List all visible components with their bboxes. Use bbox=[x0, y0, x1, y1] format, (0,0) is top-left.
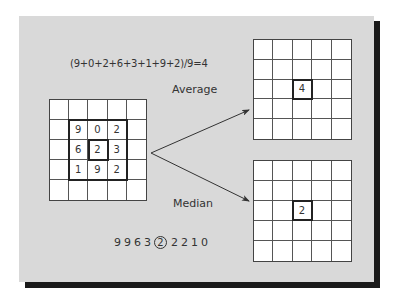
grid-cell bbox=[332, 181, 351, 201]
grid-cell bbox=[293, 221, 312, 241]
grid-cell bbox=[273, 201, 292, 221]
median-label: Median bbox=[173, 197, 213, 210]
sorted-value: 9 bbox=[124, 236, 130, 249]
grid-cell bbox=[312, 80, 331, 100]
sorted-value: 2 bbox=[181, 236, 187, 249]
grid-cell bbox=[273, 80, 292, 100]
grid-cell bbox=[273, 181, 292, 201]
grid-cell bbox=[293, 241, 312, 261]
neighborhood-cell: 6 bbox=[69, 140, 88, 160]
grid-cell bbox=[88, 100, 107, 120]
neighborhood-cell: 9 bbox=[88, 160, 107, 180]
grid-cell bbox=[273, 60, 292, 80]
grid-cell bbox=[127, 180, 146, 200]
grid-cell bbox=[332, 221, 351, 241]
grid-cell bbox=[293, 181, 312, 201]
grid-cell bbox=[273, 221, 292, 241]
grid-cell bbox=[332, 161, 351, 181]
grid-cell bbox=[312, 161, 331, 181]
grid-cell bbox=[88, 180, 107, 200]
grid-cell bbox=[50, 160, 69, 180]
grid-cell bbox=[332, 119, 351, 139]
grid-cell bbox=[50, 120, 69, 140]
grid-cell bbox=[254, 201, 273, 221]
grid-cell bbox=[273, 241, 292, 261]
neighborhood-cell: 3 bbox=[108, 140, 127, 160]
grid-cell bbox=[254, 221, 273, 241]
median-result-cell: 2 bbox=[293, 201, 312, 221]
grid-cell bbox=[293, 60, 312, 80]
input-grid: 9 0 2 6 2 3 1 9 2 bbox=[49, 99, 147, 201]
grid-cell bbox=[254, 99, 273, 119]
grid-cell bbox=[293, 99, 312, 119]
grid-cell bbox=[254, 60, 273, 80]
sorted-value: 2 bbox=[171, 236, 177, 249]
grid-cell bbox=[312, 40, 331, 60]
grid-cell bbox=[254, 161, 273, 181]
grid-cell bbox=[293, 40, 312, 60]
grid-cell bbox=[312, 99, 331, 119]
sorted-values: 9 9 6 3 2 2 2 1 0 bbox=[114, 236, 207, 249]
grid-cell bbox=[273, 40, 292, 60]
grid-cell bbox=[332, 40, 351, 60]
grid-cell bbox=[312, 201, 331, 221]
grid-cell bbox=[254, 181, 273, 201]
average-output-grid: 4 bbox=[253, 39, 352, 140]
grid-cell bbox=[127, 160, 146, 180]
sorted-value: 1 bbox=[191, 236, 197, 249]
grid-cell bbox=[332, 60, 351, 80]
grid-cell bbox=[312, 221, 331, 241]
grid-cell bbox=[69, 180, 88, 200]
median-output-grid: 2 bbox=[253, 160, 352, 262]
grid-cell bbox=[312, 241, 331, 261]
grid-cell bbox=[312, 60, 331, 80]
grid-cell bbox=[273, 99, 292, 119]
average-result-cell: 4 bbox=[293, 80, 312, 100]
average-label: Average bbox=[172, 83, 217, 96]
grid-cell bbox=[312, 181, 331, 201]
grid-cell bbox=[127, 100, 146, 120]
neighborhood-cell: 2 bbox=[108, 160, 127, 180]
grid-cell bbox=[50, 100, 69, 120]
neighborhood-cell: 1 bbox=[69, 160, 88, 180]
grid-cell bbox=[127, 120, 146, 140]
grid-cell bbox=[332, 80, 351, 100]
neighborhood-cell: 0 bbox=[88, 120, 107, 140]
grid-cell bbox=[50, 180, 69, 200]
grid-cell bbox=[69, 100, 88, 120]
grid-cell bbox=[332, 241, 351, 261]
center-cell: 2 bbox=[88, 140, 107, 160]
grid-cell bbox=[254, 119, 273, 139]
grid-cell bbox=[273, 119, 292, 139]
grid-cell bbox=[293, 161, 312, 181]
grid-cell bbox=[254, 80, 273, 100]
grid-cell bbox=[312, 119, 331, 139]
grid-cell bbox=[273, 161, 292, 181]
neighborhood-cell: 9 bbox=[69, 120, 88, 140]
grid-cell bbox=[293, 119, 312, 139]
grid-cell bbox=[108, 180, 127, 200]
grid-cell bbox=[254, 241, 273, 261]
grid-cell bbox=[254, 40, 273, 60]
grid-cell bbox=[50, 140, 69, 160]
sorted-value: 0 bbox=[201, 236, 207, 249]
grid-cell bbox=[332, 99, 351, 119]
grid-cell bbox=[108, 100, 127, 120]
sorted-value: 6 bbox=[134, 236, 140, 249]
sorted-value: 3 bbox=[144, 236, 150, 249]
average-formula: (9+0+2+6+3+1+9+2)/9=4 bbox=[70, 58, 208, 69]
grid-cell bbox=[127, 140, 146, 160]
sorted-value: 9 bbox=[114, 236, 120, 249]
grid-cell bbox=[332, 201, 351, 221]
median-value-circled: 2 bbox=[154, 236, 167, 249]
neighborhood-cell: 2 bbox=[108, 120, 127, 140]
